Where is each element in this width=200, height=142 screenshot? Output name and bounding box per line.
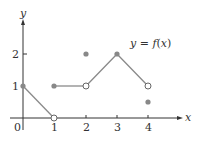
graph: y x 0 1 2 3 4 1 2 y = f(x) xyxy=(0,0,200,142)
y-tick-label-2: 2 xyxy=(12,48,19,61)
x-tick-label-3: 3 xyxy=(114,121,121,134)
point-0-1 xyxy=(20,83,25,88)
origin-label: 0 xyxy=(14,121,21,134)
filled-points xyxy=(20,51,150,104)
x-tick-label-1: 1 xyxy=(51,121,58,134)
open-points xyxy=(51,83,151,121)
point-4-0.5 xyxy=(145,99,150,104)
point-1-1 xyxy=(51,83,56,88)
open-point-1-0 xyxy=(51,115,57,121)
segment-1 xyxy=(23,86,54,118)
open-point-2-1 xyxy=(83,83,89,89)
point-2-2 xyxy=(83,51,88,56)
y-axis-label: y xyxy=(19,7,27,20)
x-axis-arrow-icon xyxy=(177,116,183,120)
x-tick-label-4: 4 xyxy=(145,121,152,134)
segment-3 xyxy=(86,54,148,86)
x-tick-label-2: 2 xyxy=(83,121,90,134)
y-tick-label-1: 1 xyxy=(12,80,19,93)
x-axis-label: x xyxy=(185,111,192,124)
point-3-2 xyxy=(114,51,119,56)
open-point-4-1 xyxy=(145,83,151,89)
function-label: y = f(x) xyxy=(129,37,171,50)
